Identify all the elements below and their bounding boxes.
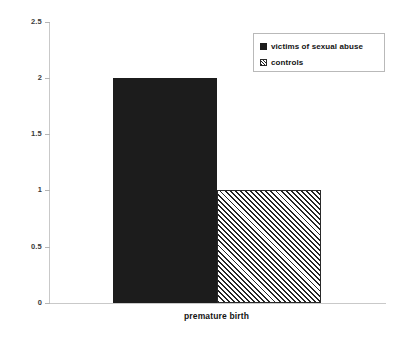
y-axis-title-container: adjusted odds ratio <box>0 0 26 339</box>
x-axis-line <box>49 303 386 304</box>
y-tick-mark-2 <box>45 78 50 79</box>
bar-controls <box>217 190 321 303</box>
y-tick-mark-2.5 <box>45 22 50 23</box>
legend-swatch-hatched-icon <box>260 59 267 66</box>
y-tick-label-2: 2 <box>22 74 42 82</box>
y-tick-label-1: 1 <box>22 186 42 194</box>
legend-swatch-solid-icon <box>260 43 267 50</box>
legend-label-victims: victims of sexual abuse <box>271 42 363 51</box>
y-tick-label-0.5: 0.5 <box>22 243 42 251</box>
y-axis-line <box>49 22 50 304</box>
y-tick-mark-0.5 <box>45 247 50 248</box>
legend-label-controls: controls <box>271 58 303 67</box>
legend-item-controls: controls <box>260 57 303 67</box>
legend-item-victims: victims of sexual abuse <box>260 41 363 51</box>
y-tick-mark-1.5 <box>45 134 50 135</box>
bar-victims-of-sexual-abuse <box>113 78 217 303</box>
y-tick-label-0: 0 <box>22 299 42 307</box>
y-tick-label-1.5: 1.5 <box>22 130 42 138</box>
y-tick-mark-0 <box>45 303 50 304</box>
legend: victims of sexual abuse controls <box>253 33 385 72</box>
x-axis-category-label: premature birth <box>113 311 320 321</box>
y-tick-mark-1 <box>45 190 50 191</box>
bar-chart: adjusted odds ratio 2.5 2 1.5 1 0.5 0 pr… <box>0 0 398 339</box>
y-tick-label-2.5: 2.5 <box>22 18 42 26</box>
